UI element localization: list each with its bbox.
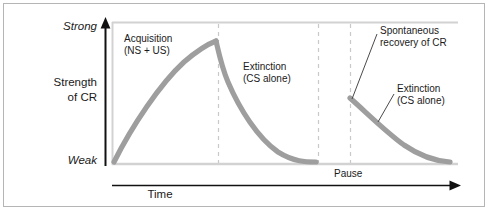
annotation-acquisition-line1: Acquisition xyxy=(124,33,172,44)
annotation-extinction-second-line2: (CS alone) xyxy=(397,95,445,106)
annotation-spontaneous-recovery-line1: Spontaneous xyxy=(380,25,439,36)
annotation-pause: Pause xyxy=(334,168,363,179)
y-axis-label-line2: of CR xyxy=(68,91,97,103)
y-axis-bottom-label: Weak xyxy=(68,154,98,166)
annotation-extinction-first-line2: (CS alone) xyxy=(243,73,291,84)
conditioning-curve-diagram: Strong Strength of CR Weak Time Acquisit… xyxy=(0,0,488,210)
x-axis-label: Time xyxy=(147,188,172,200)
annotation-acquisition-line2: (NS + US) xyxy=(124,45,170,56)
annotation-extinction-second-line1: Extinction xyxy=(397,83,440,94)
annotation-extinction-first-line1: Extinction xyxy=(243,61,286,72)
y-axis-label-line1: Strength xyxy=(54,76,97,88)
annotation-spontaneous-recovery-line2: recovery of CR xyxy=(380,37,447,48)
figure-container: Strong Strength of CR Weak Time Acquisit… xyxy=(0,0,488,210)
y-axis-top-label: Strong xyxy=(63,20,97,32)
